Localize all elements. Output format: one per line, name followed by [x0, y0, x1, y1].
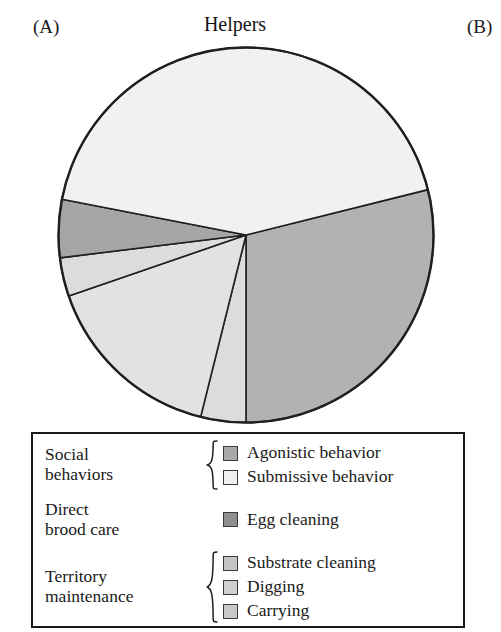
legend-group-label-territory-line2: maintenance — [45, 586, 133, 606]
legend-entries-social: Agonistic behavior Submissive behavior — [223, 441, 393, 489]
legend-item-submissive-behavior[interactable]: Submissive behavior — [223, 465, 393, 489]
legend-label-digging: Digging — [247, 578, 304, 596]
legend-label-egg-cleaning: Egg cleaning — [247, 511, 339, 529]
legend-item-carrying[interactable]: Carrying — [223, 599, 376, 623]
legend-group-label-territory: Territory maintenance — [33, 567, 201, 606]
legend-group-label-social: Social behaviors — [33, 445, 201, 484]
legend-group-label-social-line1: Social — [45, 444, 89, 464]
legend-swatch-agonistic-behavior — [223, 446, 238, 461]
legend-swatch-submissive-behavior — [223, 470, 238, 485]
legend-swatch-egg-cleaning — [223, 512, 238, 527]
chart-title: Helpers — [0, 14, 470, 34]
legend-swatch-carrying — [223, 604, 238, 619]
legend-entries-brood: Egg cleaning — [223, 508, 339, 532]
legend-group-territory-maintenance: Territory maintenance Substrate cleaning… — [33, 551, 376, 623]
legend-item-substrate-cleaning[interactable]: Substrate cleaning — [223, 551, 376, 575]
legend-label-submissive-behavior: Submissive behavior — [247, 468, 393, 486]
pie-chart-svg — [55, 44, 437, 426]
legend-group-label-territory-line1: Territory — [45, 566, 107, 586]
legend-group-label-brood-line1: Direct — [45, 499, 89, 519]
legend-item-digging[interactable]: Digging — [223, 575, 376, 599]
legend-swatch-digging — [223, 580, 238, 595]
panel-letter-b: (B) — [467, 17, 492, 36]
pie-slice-group — [58, 47, 433, 422]
legend-group-label-brood: Direct brood care — [33, 500, 201, 539]
legend-group-direct-brood-care: Direct brood care Egg cleaning — [33, 500, 339, 539]
legend: Social behaviors Agonistic behavior Subm… — [31, 432, 465, 628]
legend-entries-territory: Substrate cleaning Digging Carrying — [223, 551, 376, 623]
brace-icon-social — [201, 440, 223, 490]
brace-icon-territory — [201, 551, 223, 623]
legend-group-label-brood-line2: brood care — [45, 519, 119, 539]
legend-group-social-behaviors: Social behaviors Agonistic behavior Subm… — [33, 440, 393, 490]
legend-label-carrying: Carrying — [247, 602, 309, 620]
pie-chart — [55, 44, 437, 426]
legend-label-agonistic-behavior: Agonistic behavior — [247, 444, 381, 462]
legend-group-label-social-line2: behaviors — [45, 464, 113, 484]
legend-swatch-substrate-cleaning — [223, 556, 238, 571]
legend-item-egg-cleaning[interactable]: Egg cleaning — [223, 508, 339, 532]
legend-label-substrate-cleaning: Substrate cleaning — [247, 554, 376, 572]
legend-item-agonistic-behavior[interactable]: Agonistic behavior — [223, 441, 393, 465]
